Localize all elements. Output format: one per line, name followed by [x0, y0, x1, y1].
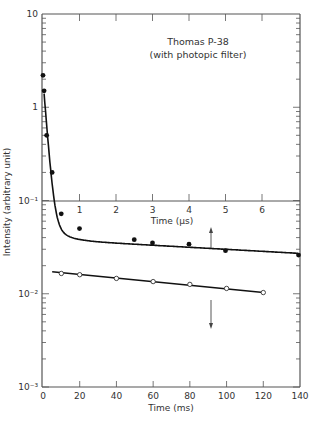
chart-subtitle: (with photopic filter) — [150, 49, 247, 60]
y-axis-label: Intensity (arbitrary unit) — [2, 148, 12, 257]
slow-decay-fit-line — [52, 272, 263, 293]
x-tick-label: 0 — [40, 391, 46, 401]
x-inner-tick-label: 2 — [113, 205, 119, 215]
filled-data-point — [50, 170, 55, 175]
x-tick-label: 80 — [184, 391, 196, 401]
x-inner-axis-label: Time (μs) — [150, 216, 193, 226]
tick-labels: 02040608010012014012345610110⁻¹10⁻²10⁻³ — [18, 9, 309, 401]
filled-data-point — [132, 237, 137, 242]
fast-decay-fit-curve — [44, 94, 298, 254]
y-tick-label: 10⁻¹ — [18, 196, 38, 206]
filled-data-point — [42, 88, 47, 93]
plot-frame — [42, 14, 300, 387]
filled-data-point — [223, 248, 228, 253]
x-tick-label: 140 — [291, 391, 308, 401]
x-tick-label: 20 — [74, 391, 86, 401]
filled-data-point — [187, 242, 192, 247]
filled-data-point — [41, 73, 46, 78]
open-data-point — [151, 279, 155, 283]
chart-title: Thomas P-38 — [166, 36, 229, 47]
y-tick-label: 10⁻² — [18, 289, 38, 299]
open-data-point — [224, 286, 228, 290]
x-tick-label: 120 — [255, 391, 272, 401]
decay-chart: 02040608010012014012345610110⁻¹10⁻²10⁻³ … — [0, 0, 318, 421]
y-tick-label: 1 — [32, 102, 38, 112]
x-inner-tick-label: 6 — [259, 205, 265, 215]
x-inner-tick-label: 5 — [223, 205, 229, 215]
x-tick-label: 100 — [218, 391, 235, 401]
axis-arrows — [209, 227, 213, 329]
x-tick-label: 60 — [147, 391, 159, 401]
filled-data-point — [150, 241, 155, 246]
y-tick-label: 10⁻³ — [18, 382, 38, 392]
open-data-point — [188, 282, 192, 286]
filled-data-point — [44, 133, 49, 138]
arrow-up-icon — [209, 227, 213, 233]
filled-data-point — [296, 253, 301, 258]
open-data-point — [59, 271, 63, 275]
filled-data-point — [77, 226, 82, 231]
arrow-down-icon — [209, 323, 213, 329]
x-tick-label: 40 — [111, 391, 123, 401]
filled-data-point — [59, 211, 64, 216]
open-data-point — [78, 273, 82, 277]
x-inner-tick-label: 3 — [150, 205, 156, 215]
y-tick-label: 10 — [27, 9, 39, 19]
open-data-point — [114, 276, 118, 280]
x-inner-tick-label: 1 — [77, 205, 83, 215]
x-inner-tick-label: 4 — [186, 205, 192, 215]
data-points — [41, 73, 301, 295]
open-data-point — [261, 290, 265, 294]
x-axis-label: Time (ms) — [147, 403, 193, 413]
fit-curves — [44, 94, 298, 293]
